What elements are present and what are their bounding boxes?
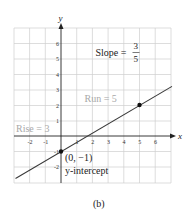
point-5-2 xyxy=(137,103,141,107)
svg-text:2: 2 xyxy=(56,103,59,109)
svg-text:1: 1 xyxy=(56,118,59,124)
svg-text:Slope =: Slope = xyxy=(96,47,127,58)
svg-text:-2: -2 xyxy=(28,139,33,145)
svg-text:2: 2 xyxy=(91,139,94,145)
svg-text:6: 6 xyxy=(56,41,59,47)
x-axis-label: x xyxy=(177,131,182,141)
svg-text:3: 3 xyxy=(56,87,59,93)
point-label: (0, −1) xyxy=(65,152,92,164)
svg-text:5: 5 xyxy=(134,54,139,64)
caption: (b) xyxy=(93,198,105,210)
grid xyxy=(14,28,171,183)
svg-text:4: 4 xyxy=(56,72,59,78)
y-axis-label: y xyxy=(58,13,63,23)
svg-text:5: 5 xyxy=(138,139,141,145)
x-axis xyxy=(14,134,176,139)
slope-annotation: Slope = 3 5 xyxy=(96,41,140,64)
chart-svg: x y -2 -1 1 2 3 4 5 6 6 5 4 3 2 1 -1 -2 … xyxy=(0,0,191,221)
svg-text:3: 3 xyxy=(134,41,139,51)
svg-text:3: 3 xyxy=(107,139,110,145)
x-tick-labels: -2 -1 1 2 3 4 5 6 xyxy=(28,139,157,145)
svg-text:6: 6 xyxy=(154,139,157,145)
point-y-intercept xyxy=(59,149,63,153)
svg-text:4: 4 xyxy=(123,139,126,145)
intercept-label: y-intercept xyxy=(65,165,109,176)
y-axis xyxy=(59,23,64,183)
svg-text:-1: -1 xyxy=(43,139,48,145)
svg-text:-2: -2 xyxy=(54,164,59,170)
svg-text:5: 5 xyxy=(56,56,59,62)
run-label: Run = 5 xyxy=(85,93,117,104)
rise-label: Rise = 3 xyxy=(16,123,49,134)
